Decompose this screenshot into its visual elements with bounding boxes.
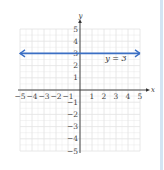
page-border bbox=[160, 0, 163, 170]
svg-text:4: 4 bbox=[126, 92, 131, 101]
svg-text:−2: −2 bbox=[67, 110, 78, 119]
svg-text:2: 2 bbox=[102, 92, 107, 101]
svg-text:1: 1 bbox=[73, 73, 78, 82]
svg-text:5: 5 bbox=[73, 25, 78, 34]
coordinate-plane: −5−4−3−2−112345−5−4−3−2−112345 y = 3 x y bbox=[0, 0, 164, 170]
svg-text:−3: −3 bbox=[38, 92, 49, 101]
svg-text:5: 5 bbox=[138, 92, 143, 101]
svg-text:3: 3 bbox=[114, 92, 119, 101]
svg-text:1: 1 bbox=[90, 92, 95, 101]
svg-text:4: 4 bbox=[73, 37, 78, 46]
svg-text:−3: −3 bbox=[67, 122, 78, 131]
svg-text:−1: −1 bbox=[67, 98, 78, 107]
svg-text:−5: −5 bbox=[67, 147, 78, 156]
x-axis-label: x bbox=[151, 86, 155, 94]
svg-text:−5: −5 bbox=[14, 92, 25, 101]
equation-label: y = 3 bbox=[104, 54, 126, 63]
y-axis-label: y bbox=[78, 12, 84, 20]
svg-text:−2: −2 bbox=[50, 92, 61, 101]
svg-text:2: 2 bbox=[73, 61, 78, 70]
svg-text:−4: −4 bbox=[26, 92, 37, 101]
svg-text:−4: −4 bbox=[67, 134, 78, 143]
